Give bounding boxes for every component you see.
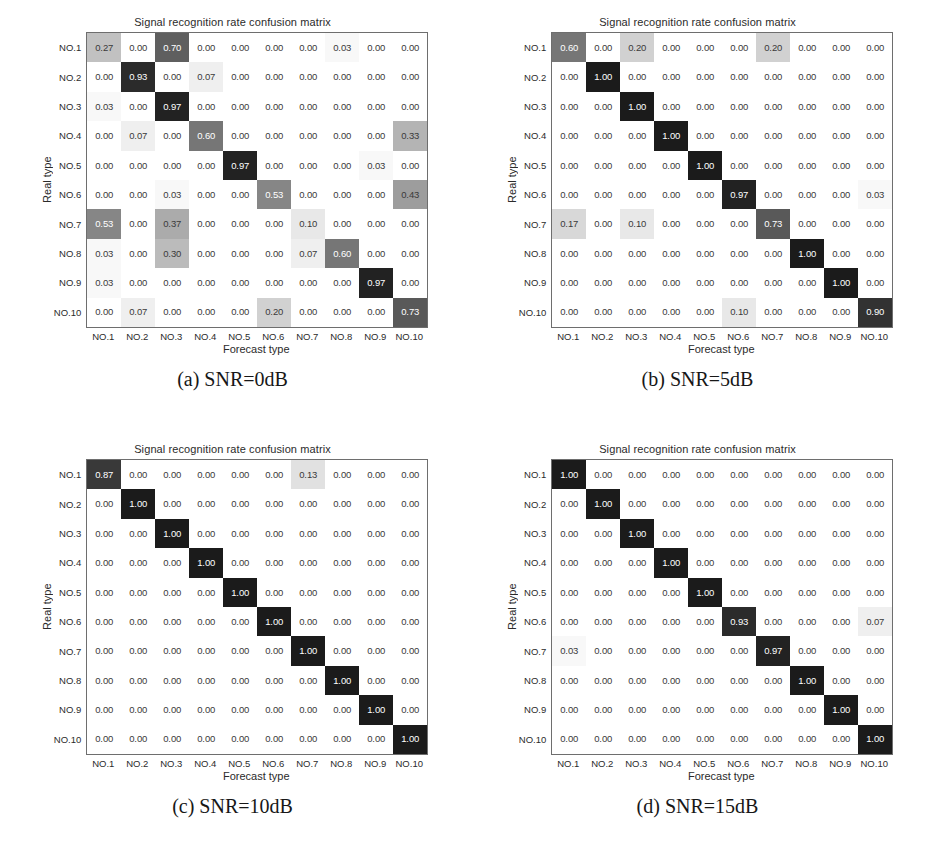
matrix-cell: 0.00 bbox=[688, 666, 722, 695]
panel-title: Signal recognition rate confusion matrix bbox=[599, 16, 796, 28]
y-tick-label: NO.8 bbox=[54, 239, 86, 268]
x-tick-labels: NO.1NO.2NO.3NO.4NO.5NO.6NO.7NO.8NO.9NO.1… bbox=[551, 331, 891, 342]
subfigure-caption-c: (c) SNR=10dB bbox=[172, 795, 293, 818]
confusion-matrix-figure-grid: Signal recognition rate confusion matrix… bbox=[0, 0, 930, 855]
matrix-cell: 0.00 bbox=[756, 298, 790, 327]
matrix-cell: 0.00 bbox=[552, 268, 586, 297]
matrix-cell: 0.03 bbox=[359, 151, 393, 180]
x-tick-label: NO.7 bbox=[290, 758, 324, 769]
matrix-cell: 0.00 bbox=[858, 695, 892, 724]
matrix-cell: 0.00 bbox=[87, 298, 121, 327]
matrix-cell: 0.00 bbox=[586, 33, 620, 62]
matrix-cell: 0.00 bbox=[393, 209, 427, 238]
matrix-cell: 0.00 bbox=[291, 607, 325, 636]
matrix-cell: 1.00 bbox=[824, 695, 858, 724]
matrix-cell: 0.00 bbox=[552, 695, 586, 724]
matrix-cell: 0.00 bbox=[257, 695, 291, 724]
matrix-cell: 0.00 bbox=[654, 151, 688, 180]
matrix-cell: 0.00 bbox=[654, 519, 688, 548]
matrix-cell: 0.00 bbox=[688, 489, 722, 518]
matrix-cell: 0.97 bbox=[756, 636, 790, 665]
matrix-cell: 0.00 bbox=[552, 239, 586, 268]
y-tick-label: NO.10 bbox=[54, 298, 86, 327]
matrix-cell: 0.00 bbox=[155, 268, 189, 297]
matrix-cell: 0.93 bbox=[121, 62, 155, 91]
y-tick-label: NO.7 bbox=[54, 209, 86, 238]
x-tick-labels: NO.1NO.2NO.3NO.4NO.5NO.6NO.7NO.8NO.9NO.1… bbox=[551, 758, 891, 769]
matrix-cell: 0.00 bbox=[121, 519, 155, 548]
matrix-cell: 0.00 bbox=[552, 92, 586, 121]
matrix-cell: 0.00 bbox=[121, 460, 155, 489]
matrix-cell: 0.00 bbox=[257, 519, 291, 548]
matrix-cell: 0.00 bbox=[325, 636, 359, 665]
matrix-cell: 0.00 bbox=[325, 92, 359, 121]
matrix-cell: 0.00 bbox=[620, 489, 654, 518]
y-tick-label: NO.5 bbox=[54, 578, 86, 607]
matrix-cell: 0.00 bbox=[87, 695, 121, 724]
x-axis-left-gutter bbox=[39, 328, 86, 355]
x-tick-label: NO.10 bbox=[392, 758, 426, 769]
matrix-cell: 0.00 bbox=[688, 62, 722, 91]
matrix-cell: 0.00 bbox=[620, 607, 654, 636]
matrix-cell: 0.00 bbox=[189, 151, 223, 180]
matrix-cell: 0.00 bbox=[824, 489, 858, 518]
matrix-cell: 1.00 bbox=[858, 725, 892, 754]
matrix-cell: 0.00 bbox=[586, 636, 620, 665]
matrix-cell: 0.00 bbox=[189, 607, 223, 636]
x-tick-label: NO.7 bbox=[755, 758, 789, 769]
x-tick-labels: NO.1NO.2NO.3NO.4NO.5NO.6NO.7NO.8NO.9NO.1… bbox=[86, 758, 426, 769]
matrix-cell: 0.00 bbox=[620, 666, 654, 695]
matrix-cell: 0.00 bbox=[790, 33, 824, 62]
matrix-cell: 1.00 bbox=[393, 725, 427, 754]
matrix-cell: 0.00 bbox=[325, 578, 359, 607]
matrix-cell: 0.00 bbox=[756, 548, 790, 577]
matrix-cell: 0.00 bbox=[257, 268, 291, 297]
x-axis-left-gutter bbox=[39, 755, 86, 782]
matrix-cell: 0.00 bbox=[654, 666, 688, 695]
matrix-cell: 0.00 bbox=[824, 607, 858, 636]
matrix-cell: 0.00 bbox=[688, 121, 722, 150]
matrix-cell: 0.07 bbox=[858, 607, 892, 636]
matrix-cell: 0.00 bbox=[257, 578, 291, 607]
matrix-cell: 0.00 bbox=[654, 489, 688, 518]
matrix-cell: 0.00 bbox=[688, 180, 722, 209]
matrix-cell: 0.00 bbox=[756, 460, 790, 489]
matrix-cell: 0.03 bbox=[87, 92, 121, 121]
matrix-cell: 0.00 bbox=[688, 33, 722, 62]
y-tick-label: NO.10 bbox=[54, 725, 86, 754]
x-tick-label: NO.6 bbox=[721, 758, 755, 769]
matrix-cell: 0.00 bbox=[722, 151, 756, 180]
matrix-cell: 0.73 bbox=[393, 298, 427, 327]
y-tick-labels: NO.1NO.2NO.3NO.4NO.5NO.6NO.7NO.8NO.9NO.1… bbox=[54, 459, 86, 755]
matrix-cell: 0.00 bbox=[722, 209, 756, 238]
matrix-cell: 0.00 bbox=[189, 209, 223, 238]
matrix-cell: 0.60 bbox=[325, 239, 359, 268]
x-tick-label: NO.4 bbox=[653, 758, 687, 769]
matrix-cell: 0.00 bbox=[586, 298, 620, 327]
matrix-cell: 0.00 bbox=[223, 725, 257, 754]
matrix-cell: 0.00 bbox=[359, 460, 393, 489]
matrix-cell: 0.00 bbox=[121, 666, 155, 695]
matrix-cell: 0.00 bbox=[722, 666, 756, 695]
matrix-cell: 0.00 bbox=[291, 33, 325, 62]
matrix-cell: 0.00 bbox=[257, 636, 291, 665]
confusion-matrix-panel-d: Signal recognition rate confusion matrix… bbox=[465, 427, 930, 855]
matrix-cell: 0.00 bbox=[722, 460, 756, 489]
matrix-cell: 0.97 bbox=[223, 151, 257, 180]
y-tick-label: NO.10 bbox=[519, 298, 551, 327]
y-tick-label: NO.4 bbox=[519, 121, 551, 150]
matrix-cell: 0.00 bbox=[393, 607, 427, 636]
y-tick-label: NO.9 bbox=[519, 268, 551, 297]
y-tick-label: NO.6 bbox=[519, 607, 551, 636]
matrix-cell: 0.00 bbox=[790, 268, 824, 297]
matrix-cell: 0.00 bbox=[858, 489, 892, 518]
x-tick-label: NO.6 bbox=[256, 331, 290, 342]
matrix-cell: 0.00 bbox=[189, 239, 223, 268]
matrix-cell: 0.53 bbox=[257, 180, 291, 209]
matrix-cell: 0.00 bbox=[121, 548, 155, 577]
matrix-cell: 0.00 bbox=[223, 695, 257, 724]
x-tick-label: NO.8 bbox=[789, 331, 823, 342]
matrix-cell: 0.03 bbox=[325, 33, 359, 62]
matrix-cell: 0.00 bbox=[858, 62, 892, 91]
matrix-cell: 0.00 bbox=[858, 268, 892, 297]
